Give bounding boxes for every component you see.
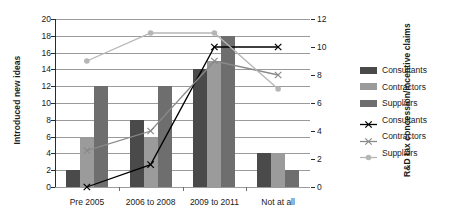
x-tickmark [246,187,247,191]
y-tick-label-left: 4 [31,149,51,158]
legend-label: Consultants [382,65,427,75]
y-tickmark-right [311,19,315,20]
chart-container: Introduced new ideas R&D tax concession/… [0,0,449,223]
legend-label: Suppliers [382,98,417,108]
y-tick-label-left: 0 [31,183,51,192]
legend-item[interactable]: Suppliers [360,95,449,112]
y-tick-label-right: 4 [317,127,337,136]
legend-x-marker-icon [360,132,377,141]
line-marker-x [147,128,153,134]
line-path [87,47,278,187]
x-axis-label: Not at all [246,197,310,207]
line-marker-circle [212,30,218,36]
y-tickmark-right [311,103,315,104]
y-tick-label-right: 12 [317,15,337,24]
y-tick-label-right: 6 [317,99,337,108]
y-axis-title-left: Introduced new ideas [12,40,22,160]
y-tickmark-right [311,131,315,132]
y-tick-label-left: 12 [31,82,51,91]
y-tick-label-left: 2 [31,166,51,175]
x-axis-label: 2009 to 2011 [183,197,247,207]
legend-swatch-icon [360,67,377,74]
legend-label: Contractors [382,131,426,141]
legend-label: Consultants [382,115,427,125]
y-tickmark-left [51,187,55,188]
y-tickmark-right [311,75,315,76]
y-tick-label-left: 18 [31,32,51,41]
x-axis-label: Pre 2005 [55,197,119,207]
y-tick-label-left: 8 [31,116,51,125]
y-tick-label-right: 0 [317,183,337,192]
x-tickmark [119,187,120,191]
y-tick-label-right: 8 [317,71,337,80]
legend-label: Contractors [382,82,426,92]
legend-item[interactable]: Contractors [360,128,449,145]
legend-item[interactable]: Consultants [360,112,449,129]
y-tickmark-right [311,47,315,48]
legend-x-marker-icon [360,115,377,124]
y-tick-label-left: 10 [31,99,51,108]
line-marker-x [147,161,153,167]
line-path [87,33,278,89]
legend-circle-marker-icon [360,148,377,157]
y-tick-label-right: 2 [317,155,337,164]
legend-swatch-icon [360,83,377,90]
y-tick-label-left: 20 [31,15,51,24]
plot-area [55,19,310,187]
legend-item[interactable]: Suppliers [360,145,449,162]
line-marker-circle [148,30,154,36]
y-tickmark-right [311,159,315,160]
legend-item[interactable]: Contractors [360,79,449,96]
line-marker-circle [275,86,281,92]
line-series-group [55,19,310,187]
line-marker-circle [84,58,90,64]
y-tick-label-left: 6 [31,133,51,142]
legend-swatch-icon [360,100,377,107]
line-marker-x [84,147,90,153]
x-axis-label: 2006 to 2008 [119,197,183,207]
y-tick-label-left: 16 [31,49,51,58]
legend-item[interactable]: Consultants [360,62,449,79]
chart-legend: ConsultantsContractorsSuppliersConsultan… [360,62,449,161]
x-tickmark [183,187,184,191]
y-tick-label-right: 10 [317,43,337,52]
y-tick-label-left: 14 [31,65,51,74]
legend-label: Suppliers [382,148,417,158]
y-tickmark-right [311,187,315,188]
